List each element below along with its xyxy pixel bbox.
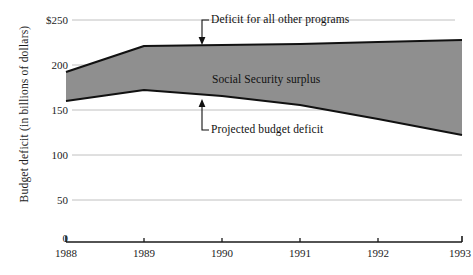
deficit-band-area — [66, 40, 462, 135]
annotation-leader-top — [199, 20, 209, 45]
annotation-projected-budget-deficit: Projected budget deficit — [211, 123, 323, 135]
x-tick-1988: 1988 — [36, 247, 96, 259]
x-tick-1990: 1990 — [192, 247, 252, 259]
axis-lines — [66, 236, 462, 242]
x-tick-1991: 1991 — [270, 247, 330, 259]
x-tick-1993: 1993 — [430, 247, 473, 259]
x-tick-1992: 1992 — [348, 247, 408, 259]
chart-figure: Budget deficit (in billions of dollars) … — [0, 0, 473, 275]
annotation-leader-bottom — [199, 99, 209, 130]
chart-plot-area — [0, 0, 473, 275]
annotation-deficit-other-programs: Deficit for all other programs — [211, 13, 349, 25]
annotation-social-security-surplus: Social Security surplus — [212, 73, 320, 85]
x-tick-1989: 1989 — [114, 247, 174, 259]
